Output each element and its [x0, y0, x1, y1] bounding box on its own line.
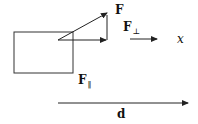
force-vector-arrow	[58, 13, 107, 40]
perpendicular-force-main: F	[123, 20, 132, 34]
displacement-label: d	[117, 108, 125, 120]
perpendicular-subscript: ⊥	[133, 27, 141, 36]
x-axis-label: x	[177, 33, 184, 45]
force-diagram: F F⊥ x F‖ d	[0, 0, 198, 124]
force-label: F	[115, 4, 124, 16]
block-rectangle	[14, 32, 73, 73]
parallel-force-main: F	[78, 73, 87, 87]
perpendicular-force-label: F⊥	[123, 21, 140, 33]
parallel-force-label: F‖	[78, 74, 92, 86]
parallel-subscript: ‖	[88, 80, 92, 89]
diagram-canvas	[0, 0, 198, 124]
